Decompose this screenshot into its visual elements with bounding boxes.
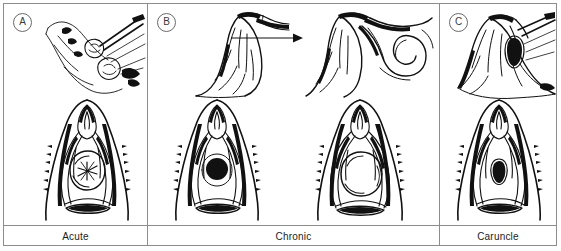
sagittal-inset-acute — [44, 12, 146, 98]
vulva-frontal-caruncle — [446, 96, 552, 222]
illustration-band: A — [4, 4, 556, 225]
sagittal-inset-chronic-late — [306, 10, 434, 98]
sagittal-inset-caruncle — [458, 12, 556, 98]
panel-chronic: B — [147, 4, 439, 225]
panel-acute: A — [4, 4, 147, 225]
vulva-frontal-chronic-late — [303, 96, 421, 222]
sagittal-inset-chronic-early — [193, 10, 293, 98]
vulva-frontal-acute — [32, 96, 142, 222]
panel-letter-a-icon: A — [13, 13, 32, 32]
progression-arrow — [231, 30, 303, 42]
figure-plate: A — [3, 3, 557, 246]
caption-chronic: Chronic — [147, 226, 439, 246]
caption-acute: Acute — [4, 226, 147, 246]
panel-letter-b-icon: B — [157, 13, 176, 32]
panel-caruncle: C — [439, 4, 556, 225]
caption-caruncle: Caruncle — [439, 226, 556, 246]
panel-letter-c-icon: C — [449, 13, 468, 32]
vulva-frontal-chronic-early — [162, 96, 272, 222]
caption-row: Acute Chronic Caruncle — [4, 225, 556, 246]
